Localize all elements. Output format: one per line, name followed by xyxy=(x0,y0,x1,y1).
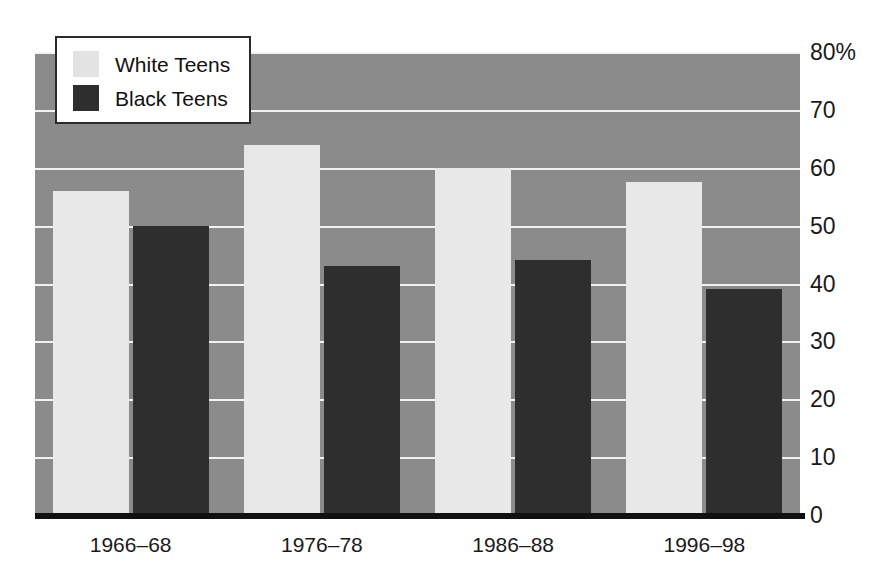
legend-label-black-teens: Black Teens xyxy=(115,88,228,109)
bar-black-teens-2 xyxy=(515,260,591,515)
y-tick-label-10: 10 xyxy=(810,446,836,469)
legend-item-white-teens: White Teens xyxy=(73,47,249,81)
legend-swatch-black-icon xyxy=(73,85,99,111)
y-tick-label-50: 50 xyxy=(810,215,836,238)
x-tick-label-0: 1966–68 xyxy=(35,534,226,555)
legend-label-white-teens: White Teens xyxy=(115,54,230,75)
x-axis-baseline xyxy=(35,513,805,519)
bar-chart: 01020304050607080% 1966–681976–781986–88… xyxy=(0,0,880,581)
y-tick-label-80: 80% xyxy=(810,41,856,64)
bar-white-teens-0 xyxy=(53,191,129,515)
y-tick-label-40: 40 xyxy=(810,273,836,296)
y-tick-label-70: 70 xyxy=(810,99,836,122)
bar-black-teens-0 xyxy=(133,226,209,515)
x-tick-label-2: 1986–88 xyxy=(418,534,609,555)
y-tick-label-60: 60 xyxy=(810,157,836,180)
x-tick-label-3: 1996–98 xyxy=(609,534,800,555)
bar-black-teens-3 xyxy=(706,289,782,515)
bar-black-teens-1 xyxy=(324,266,400,515)
bar-white-teens-3 xyxy=(626,182,702,515)
y-tick-label-20: 20 xyxy=(810,388,836,411)
y-tick-label-0: 0 xyxy=(810,504,823,527)
bar-white-teens-2 xyxy=(435,168,511,515)
legend-item-black-teens: Black Teens xyxy=(73,81,249,115)
chart-legend: White Teens Black Teens xyxy=(55,36,251,124)
y-tick-label-30: 30 xyxy=(810,330,836,353)
legend-swatch-white-icon xyxy=(73,51,99,77)
bar-white-teens-1 xyxy=(244,145,320,515)
x-tick-label-1: 1976–78 xyxy=(226,534,417,555)
gridline xyxy=(35,168,800,170)
